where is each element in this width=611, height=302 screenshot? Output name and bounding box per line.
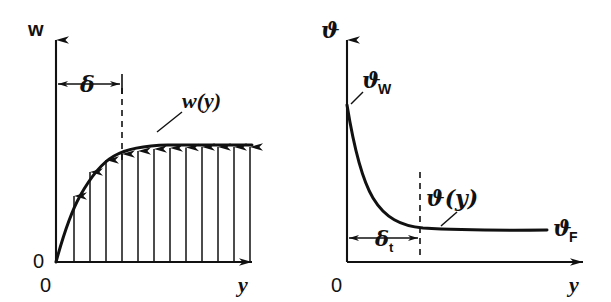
velocity-profile-arrows xyxy=(74,147,250,262)
boundary-layer-figure: δ w(y) w y 0 0 xyxy=(0,0,611,302)
thermal-delta-t-label: δ xyxy=(374,226,389,251)
velocity-origin-label-vertical: 0 xyxy=(33,250,44,272)
thermal-fluid-value-subscript: F xyxy=(569,229,578,245)
velocity-boundary-layer-panel: δ w(y) w y 0 0 xyxy=(0,0,305,302)
velocity-y-axis-label: w xyxy=(27,18,44,40)
thermal-wall-value-subscript: W xyxy=(378,81,392,97)
thermal-curve xyxy=(347,105,547,230)
velocity-origin-label-horizontal: 0 xyxy=(40,274,51,296)
thermal-x-axis-label: y xyxy=(566,272,579,297)
velocity-plot-svg: δ w(y) w y 0 0 xyxy=(0,0,305,302)
velocity-curve-label-leader xyxy=(157,112,182,132)
thermal-plot-svg: δ t ϑ W ϑ(y) ϑ F ϑ y 0 xyxy=(305,0,611,302)
thermal-y-axis-label: ϑ xyxy=(321,17,340,43)
velocity-x-axis-label: y xyxy=(235,272,248,297)
thermal-boundary-layer-panel: δ t ϑ W ϑ(y) ϑ F ϑ y 0 xyxy=(305,0,611,302)
velocity-delta-label: δ xyxy=(79,71,95,97)
thermal-wall-label-leader xyxy=(351,92,363,104)
thermal-delta-t-subscript: t xyxy=(389,240,394,255)
thermal-curve-label-leader xyxy=(441,212,457,226)
thermal-origin-label: 0 xyxy=(331,274,342,296)
thermal-curve-label: ϑ(y) xyxy=(426,185,478,211)
velocity-curve-label: w(y) xyxy=(182,88,221,113)
